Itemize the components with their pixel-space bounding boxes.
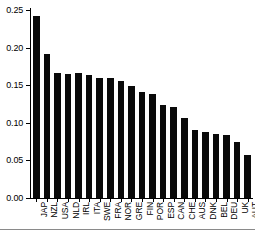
- bar: [65, 74, 72, 198]
- bar: [223, 135, 230, 198]
- bar: [107, 78, 114, 198]
- bar: [54, 73, 61, 198]
- bar: [160, 105, 167, 198]
- bar: [118, 81, 125, 198]
- x-tick-label: UK: [241, 202, 250, 214]
- x-tick-label: DNK: [209, 202, 218, 220]
- x-axis-labels: JAPNZLUSANLDIRLITASWEFRANORGREFINPORESPC…: [31, 202, 253, 228]
- bar: [213, 134, 220, 198]
- x-tick-label: FIN: [146, 202, 155, 215]
- bar: [244, 155, 251, 198]
- x-tick-label: USA: [61, 202, 70, 219]
- bar: [86, 75, 93, 198]
- x-tick-label: AUT: [251, 202, 255, 219]
- x-tick-label: ITA: [93, 202, 102, 214]
- x-tick-label: CHE: [188, 202, 197, 220]
- x-tick-label: SWE: [103, 202, 112, 221]
- x-tick-label: NZL: [50, 202, 59, 218]
- bar-chart-figure: 0.000.050.100.150.200.25 JAPNZLUSANLDIRL…: [0, 0, 255, 237]
- bar: [170, 107, 177, 198]
- bar: [181, 118, 188, 198]
- y-tick-label: 0.25: [6, 6, 23, 15]
- clipped-caption: [0, 231, 255, 237]
- x-tick-label: DEU: [230, 202, 239, 220]
- x-tick-label: AUS: [198, 202, 207, 219]
- y-tick-label: 0.15: [6, 81, 23, 90]
- bar: [44, 54, 51, 198]
- x-tick-label: NLD: [72, 202, 81, 219]
- x-tick-label: GRE: [135, 202, 144, 220]
- x-tick-label: NOR: [124, 202, 133, 221]
- y-tick-label: 0.05: [6, 156, 23, 165]
- x-tick-label: POR: [156, 202, 165, 220]
- bar: [96, 78, 103, 198]
- y-tick-label: 0.00: [6, 194, 23, 203]
- x-tick-label: FRA: [114, 202, 123, 219]
- bar: [192, 130, 199, 198]
- x-tick-label: ESP: [167, 202, 176, 219]
- bar: [139, 92, 146, 198]
- bar: [33, 16, 40, 198]
- bar: [75, 73, 82, 198]
- bar-series: [31, 0, 253, 198]
- bar: [202, 132, 209, 198]
- bar: [234, 142, 241, 198]
- x-tick-label: JAP: [40, 202, 49, 217]
- x-tick-label: CAN: [177, 202, 186, 220]
- y-tick-label: 0.10: [6, 119, 23, 128]
- bottom-divider: [0, 229, 255, 230]
- bar: [149, 94, 156, 198]
- x-tick-label: IRL: [82, 202, 91, 215]
- bar: [128, 86, 135, 198]
- x-tick-label: BEL: [220, 202, 229, 218]
- y-tick-label: 0.20: [6, 44, 23, 53]
